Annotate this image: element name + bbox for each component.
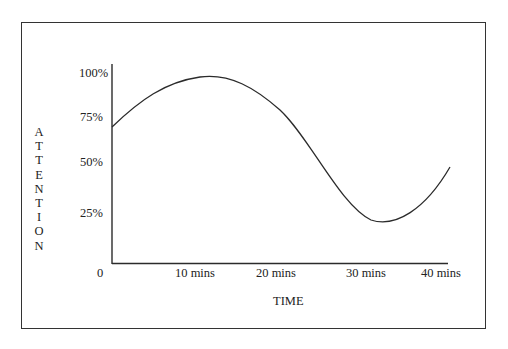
- y-axis-label: A T T E N T I O N: [33, 125, 45, 253]
- y-tick-75: 75%: [80, 110, 103, 125]
- y-label-letter: I: [33, 210, 45, 224]
- y-tick-25: 25%: [80, 206, 103, 221]
- x-tick-30: 30 mins: [346, 266, 386, 281]
- chart-plot-area: [0, 0, 508, 349]
- y-label-letter: N: [33, 239, 45, 253]
- y-label-letter: O: [33, 224, 45, 238]
- attention-curve: [112, 76, 450, 221]
- y-label-letter: T: [33, 153, 45, 167]
- y-label-letter: A: [33, 125, 45, 139]
- y-tick-100: 100%: [79, 66, 108, 81]
- x-tick-20: 20 mins: [256, 266, 296, 281]
- y-tick-50: 50%: [80, 155, 103, 170]
- x-tick-40: 40 mins: [421, 266, 461, 281]
- y-label-letter: N: [33, 182, 45, 196]
- x-tick-10: 10 mins: [175, 266, 215, 281]
- x-tick-0: 0: [97, 266, 103, 281]
- y-label-letter: E: [33, 168, 45, 182]
- y-label-letter: T: [33, 196, 45, 210]
- y-label-letter: T: [33, 139, 45, 153]
- x-axis-label: TIME: [273, 294, 304, 309]
